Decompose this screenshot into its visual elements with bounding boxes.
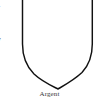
- heraldic-shield-figure: [0, 0, 99, 99]
- figure-caption: Argent: [0, 90, 99, 98]
- shield-outline-icon: [0, 0, 99, 99]
- document-page: 1 s y - s Argent: [0, 0, 99, 99]
